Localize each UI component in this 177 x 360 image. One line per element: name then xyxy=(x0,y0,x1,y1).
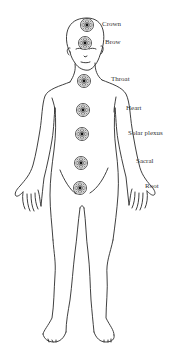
chakra-sacral-icon xyxy=(75,157,88,170)
nose xyxy=(84,56,87,57)
mouth xyxy=(81,62,90,63)
outer-left-leg xyxy=(43,240,55,334)
neck-left xyxy=(70,64,75,82)
chakra-root-icon xyxy=(74,182,87,195)
chakra-heart-icon xyxy=(77,104,90,117)
left-foot xyxy=(43,332,66,342)
crotch xyxy=(80,206,84,208)
left-hand xyxy=(23,190,41,211)
chakra-solar-plexus-icon xyxy=(76,128,89,141)
left-chest-line xyxy=(52,98,55,112)
chakra-group xyxy=(74,19,94,195)
chakra-label-crown: Crown xyxy=(102,21,121,28)
chakra-label-root: Root xyxy=(145,183,159,190)
torso-left xyxy=(50,108,56,240)
outer-right-leg xyxy=(106,240,114,335)
chakra-brow-icon xyxy=(79,37,92,50)
inner-left-leg xyxy=(66,208,80,332)
body-diagram xyxy=(0,0,177,360)
chakra-label-solar-plexus: Solar plexus xyxy=(128,130,163,137)
right-hand xyxy=(129,189,147,210)
chakra-label-throat: Throat xyxy=(111,76,130,83)
right-groin xyxy=(90,168,108,193)
chakra-label-brow: Brow xyxy=(105,39,121,46)
right-eye xyxy=(89,48,96,49)
inner-right-leg xyxy=(84,208,94,332)
chakra-label-sacral: Sacral xyxy=(136,158,154,165)
chakra-throat-icon xyxy=(78,75,91,88)
left-arm-outer xyxy=(15,82,70,196)
torso-right xyxy=(113,108,118,240)
chakra-label-heart: Heart xyxy=(126,105,142,112)
neck-right xyxy=(95,63,102,80)
right-arm-outer xyxy=(102,80,155,195)
chakra-crown-icon xyxy=(81,19,94,32)
